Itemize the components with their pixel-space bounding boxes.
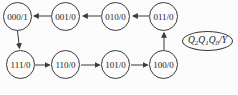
state-001-label: 001/0 (55, 12, 76, 22)
state-101-label: 101/0 (105, 60, 126, 70)
state-111: 111/0 (6, 50, 35, 79)
state-100: 100/0 (149, 50, 178, 79)
state-011-label: 011/0 (153, 12, 173, 22)
state-diagram: 000/1 001/0 010/0 011/0 111/0 110/0 101/… (0, 0, 238, 95)
state-010-label: 010/0 (105, 12, 126, 22)
legend-q2-base: Q (188, 35, 195, 45)
state-110: 110/0 (51, 50, 80, 79)
state-111-label: 111/0 (11, 60, 31, 70)
state-001: 001/0 (51, 2, 80, 31)
state-000: 000/1 (3, 2, 32, 31)
legend-label: Q2Q1Q0/Y (188, 36, 227, 47)
legend-oval: Q2Q1Q0/Y (182, 31, 233, 51)
state-100-label: 100/0 (153, 60, 174, 70)
legend-output-suffix: /Y (219, 35, 227, 45)
state-000-label: 000/1 (7, 12, 28, 22)
state-110-label: 110/0 (55, 60, 75, 70)
arrow-000-to-111 (18, 31, 20, 48)
state-011: 011/0 (149, 2, 178, 31)
legend-q0-base: Q (209, 35, 216, 45)
state-101: 101/0 (101, 50, 130, 79)
state-010: 010/0 (101, 2, 130, 31)
